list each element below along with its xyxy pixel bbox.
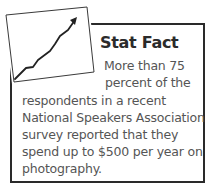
body-line-2: percent of the (105, 74, 191, 91)
body-line-1: More than 75 (104, 57, 185, 74)
body-line-6: spend up to $500 per year on (22, 143, 203, 160)
callout-title: Stat Fact (100, 33, 178, 52)
rising-line-chart-icon (0, 0, 100, 92)
body-line-5: survey reported that they (22, 126, 178, 143)
body-line-7: photography. (22, 160, 102, 177)
body-line-3: respondents in a recent (22, 92, 166, 109)
body-line-4: National Speakers Association (22, 109, 205, 126)
